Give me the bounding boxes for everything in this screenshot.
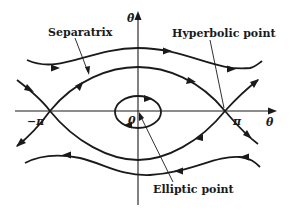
pi-tick-label: π — [232, 115, 242, 128]
phase-portrait: Separatrix Hyperbolic point Elliptic poi… — [0, 0, 305, 215]
leader-arrow-icon — [85, 66, 90, 75]
right-separatrix-arms — [225, 80, 258, 144]
flow-arrow-icon — [163, 48, 172, 55]
flow-arrow-icon — [174, 168, 183, 175]
flow-arrow-icon — [51, 65, 60, 72]
elliptic-point-label: Elliptic point — [153, 183, 235, 196]
x-axis-label: θ — [266, 116, 274, 129]
theta-axis-arrow-icon — [268, 108, 277, 115]
origin-label: 0 — [128, 114, 136, 127]
separatrix-label: Separatrix — [48, 26, 113, 39]
leader-arrow-icon — [139, 112, 144, 121]
neg-pi-tick-label: −π — [27, 115, 45, 128]
flow-arrow-icon — [227, 66, 236, 73]
flow-arrow-icon — [250, 79, 259, 88]
outer-top-trajectory — [27, 48, 262, 68]
outer-bottom-trajectory — [25, 156, 260, 175]
flow-arrow-icon — [240, 154, 249, 161]
elliptic-point-leader — [140, 115, 173, 182]
y-axis-label: θ̇ — [127, 12, 135, 25]
flow-arrow-icon — [144, 95, 152, 102]
flow-arrow-icon — [62, 152, 71, 159]
hyperbolic-point-label: Hyperbolic point — [172, 27, 276, 40]
left-separatrix-arms — [17, 80, 50, 146]
theta-dot-axis-arrow-icon — [135, 11, 142, 20]
flow-arrow-icon — [24, 84, 34, 92]
